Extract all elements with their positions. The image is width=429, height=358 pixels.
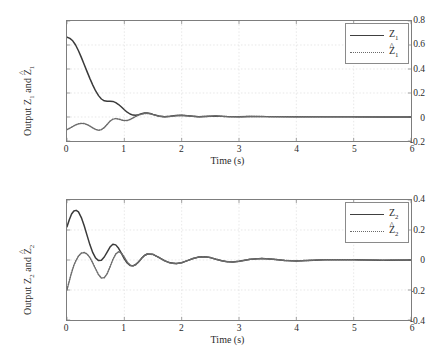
ylabel-prefix-bottom: Output — [22, 284, 33, 315]
legend-swatch-solid-z1 — [350, 35, 384, 36]
x-tick-top-1: 1 — [109, 144, 139, 154]
legend-swatch-solid-z2 — [350, 214, 384, 215]
y-axis-label-top: Output Z1 and ^Z1 — [22, 66, 35, 136]
x-tick-top-3: 3 — [224, 144, 254, 154]
x-axis-label-top: Time (s) — [0, 155, 429, 166]
ylabel-prefix-top: Output — [22, 105, 33, 136]
legend-swatch-dotted-z2-hat — [350, 231, 384, 232]
chart-panel-z2: Output Z2 and ^Z2 0.4 0.2 0 -0.2 -0.4 0 … — [0, 179, 429, 358]
y-axis-label-bottom: Output Z2 and ^Z2 — [22, 245, 35, 315]
x-tick-bottom-5: 5 — [339, 323, 369, 333]
legend-top: Z1 ^Z1 — [345, 23, 409, 64]
x-tick-top-6: 6 — [397, 144, 427, 154]
x-tick-bottom-1: 1 — [109, 323, 139, 333]
x-axis-label-bottom: Time (s) — [0, 334, 429, 345]
hat-accent-legend-top: ^ — [390, 42, 394, 51]
legend-item-z2[interactable]: Z2 — [350, 206, 403, 223]
hat-accent-ylabel-top: ^ — [18, 70, 27, 74]
chart-panel-z1: Output Z1 and ^Z1 0.8 0.6 0.4 0.2 0 -0.2… — [0, 0, 429, 179]
ylabel-mid-top: and — [22, 75, 33, 95]
ylabel-var1-top: Z — [22, 99, 33, 105]
ylabel-var1-bottom: Z — [22, 278, 33, 284]
x-tick-bottom-2: 2 — [166, 323, 196, 333]
legend-item-z1[interactable]: Z1 — [350, 27, 403, 44]
figure-container: Output Z1 and ^Z1 0.8 0.6 0.4 0.2 0 -0.2… — [0, 0, 429, 358]
ylabel-var2-hat-top: ^Z — [22, 69, 33, 75]
legend-swatch-dotted-z1-hat — [350, 52, 384, 53]
x-tick-bottom-0: 0 — [51, 323, 81, 333]
legend-bottom: Z2 ^Z2 — [345, 202, 409, 243]
x-tick-bottom-4: 4 — [282, 323, 312, 333]
legend-item-z2-hat[interactable]: ^Z2 — [350, 223, 403, 240]
x-tick-bottom-3: 3 — [224, 323, 254, 333]
hat-accent-ylabel-bottom: ^ — [18, 249, 27, 253]
legend-item-z1-hat[interactable]: ^Z1 — [350, 44, 403, 61]
x-tick-top-4: 4 — [282, 144, 312, 154]
x-tick-top-2: 2 — [166, 144, 196, 154]
x-tick-bottom-6: 6 — [397, 323, 427, 333]
ylabel-sub1-top: 1 — [28, 95, 35, 99]
x-tick-top-0: 0 — [51, 144, 81, 154]
ylabel-var2-hat-bottom: ^Z — [22, 248, 33, 254]
ylabel-mid-bottom: and — [22, 254, 33, 274]
ylabel-sub1-bottom: 2 — [28, 274, 35, 278]
hat-accent-legend-bottom: ^ — [390, 221, 394, 230]
legend-label-z2-hat: ^Z2 — [389, 225, 399, 238]
x-tick-top-5: 5 — [339, 144, 369, 154]
legend-label-z1-hat: ^Z1 — [389, 46, 399, 59]
